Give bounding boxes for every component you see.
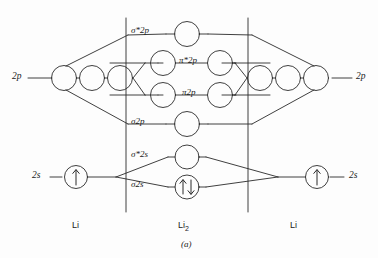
- right-2p-orbital-1: [304, 66, 329, 91]
- sigma-2s-orbital: [175, 175, 199, 199]
- mo-diagram-figure: 2p 2p 2s 2s σ*2p π*2p π2p σ2p σ*2s σ2s L…: [0, 0, 378, 258]
- left-2p-orbital-1: [52, 66, 77, 91]
- right-correlation-sigma-star-2s: [206, 157, 278, 177]
- right-correlation-pi-star-2p-diag: [235, 63, 247, 78]
- right-correlation-sigma-2s: [206, 177, 278, 187]
- left-2p-label: 2p: [12, 72, 22, 82]
- li2-subscript: 2: [185, 225, 189, 232]
- right-2s-label: 2s: [349, 171, 357, 181]
- pi-2p-label: π2p: [182, 88, 196, 97]
- right-2p-orbital-2: [276, 66, 301, 91]
- right-2p-orbital-3: [248, 66, 273, 91]
- left-correlation-sigma-star-2s: [116, 157, 168, 177]
- sigma-star-2s-label: σ*2s: [131, 150, 148, 159]
- left-2s-label: 2s: [32, 171, 40, 181]
- right-correlation-sigma-star-2p-a: [252, 35, 314, 66]
- sigma-2p-label: σ2p: [131, 117, 144, 126]
- sigma-star-2s-orbital: [175, 145, 199, 169]
- mo-diagram-canvas: [0, 0, 378, 258]
- right-correlation-pi-2p-diag: [235, 78, 247, 95]
- right-correlation-sigma-star-2p-b: [208, 34, 252, 35]
- species-label-left-li: Li: [72, 221, 79, 230]
- li2-element: Li: [178, 220, 185, 230]
- left-correlation-pi-star-2p-diag: [133, 63, 145, 78]
- species-label-right-li: Li: [290, 221, 297, 230]
- left-2p-orbital-3: [108, 66, 133, 91]
- pi-star-2p-label: π*2p: [179, 56, 197, 65]
- species-label-li2: Li2: [178, 221, 189, 232]
- left-correlation-sigma-star-2p-a: [66, 35, 128, 66]
- figure-caption: (a): [181, 240, 192, 249]
- sigma-2s-label: σ2s: [131, 180, 143, 189]
- sigma-star-2p-orbital: [175, 22, 200, 47]
- sigma-star-2p-label: σ*2p: [131, 26, 149, 35]
- left-2p-orbital-2: [80, 66, 105, 91]
- sigma-2p-orbital: [175, 112, 200, 137]
- right-2p-label: 2p: [356, 72, 366, 82]
- left-correlation-pi-2p-diag: [133, 78, 145, 95]
